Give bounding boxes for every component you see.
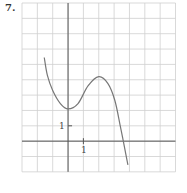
x-tick-label: 1 [81,145,87,155]
grid-lines [22,3,176,172]
axis-ticks: 11 [59,121,87,155]
graph: 11 [0,0,187,193]
y-tick-label: 1 [59,121,65,131]
